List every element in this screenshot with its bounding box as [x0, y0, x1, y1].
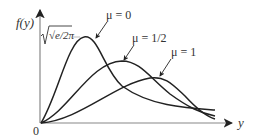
chart-figure: f(y) y 0 √e/2π μ = 0 μ = 1/2 μ = 1 — [0, 0, 264, 138]
label-mu-half: μ = 1/2 — [132, 31, 167, 45]
peak-value-text: √e/2π — [49, 29, 74, 41]
x-axis-label: y — [236, 115, 244, 130]
peak-value-label: √e/2π — [41, 26, 80, 44]
label-mu-0: μ = 0 — [106, 8, 131, 22]
label-mu-1: μ = 1 — [171, 45, 196, 59]
y-axis-label: f(y) — [16, 15, 34, 30]
arrow-mu-1 — [160, 59, 171, 76]
curve-mu-1 — [41, 78, 215, 123]
curve-mu-half — [41, 61, 215, 123]
arrow-mu-0 — [96, 22, 107, 38]
arrow-mu-half — [124, 45, 134, 60]
origin-label: 0 — [33, 124, 39, 138]
